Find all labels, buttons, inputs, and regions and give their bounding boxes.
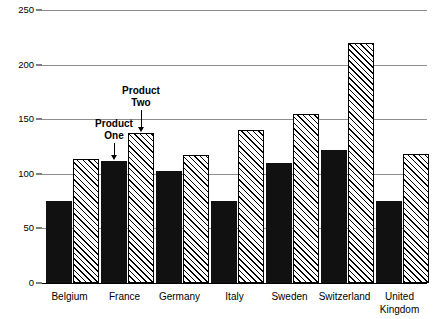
bar-group — [101, 10, 154, 283]
bar-product-two — [238, 130, 264, 283]
bar-group — [211, 10, 264, 283]
bar-product-two — [128, 133, 154, 283]
bar-product-one — [101, 161, 127, 283]
bar-product-one — [376, 201, 402, 283]
y-axis-tick-label: 100 — [0, 169, 34, 179]
y-axis-tick-label: 150 — [0, 114, 34, 124]
y-axis-tick-label: 200 — [0, 60, 34, 70]
bar-chart: 050100150200250 BelgiumFranceGermanyItal… — [0, 0, 437, 319]
bar-group — [376, 10, 429, 283]
bar-group — [266, 10, 319, 283]
axis-baseline — [42, 283, 427, 284]
bar-group — [156, 10, 209, 283]
bar-product-two — [348, 43, 374, 283]
bar-product-one — [156, 171, 182, 283]
bar-product-one — [266, 163, 292, 283]
bar-product-one — [321, 150, 347, 283]
bar-group — [321, 10, 374, 283]
product-one-annotation-arrow-head — [111, 155, 117, 160]
y-axis-tick-label: 50 — [0, 224, 34, 234]
product-two-annotation-label: Product Two — [99, 85, 183, 108]
bar-group — [46, 10, 99, 283]
plot-area — [42, 10, 427, 283]
bar-product-two — [403, 154, 429, 283]
product-one-annotation-label: Product One — [72, 118, 156, 141]
bar-product-one — [211, 201, 237, 283]
bar-product-two — [293, 114, 319, 283]
x-axis-category-label: United Kingdom — [366, 290, 433, 316]
bar-product-two — [183, 155, 209, 283]
bar-product-two — [73, 159, 99, 283]
bar-product-one — [46, 201, 72, 283]
y-axis-tick-label: 0 — [0, 278, 34, 288]
y-axis-tick-label: 250 — [0, 5, 34, 15]
